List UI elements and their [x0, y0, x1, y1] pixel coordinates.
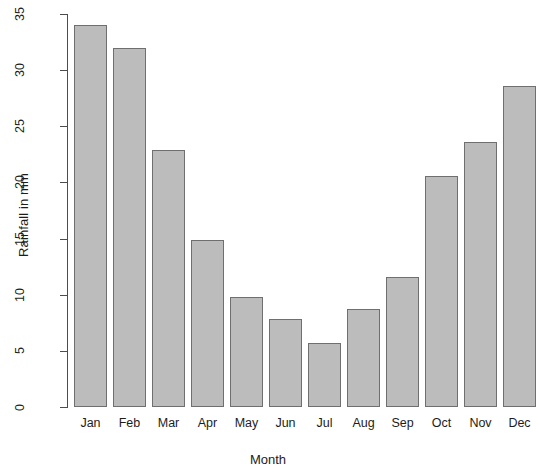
y-axis-tick: [60, 14, 67, 15]
y-axis-tick: [60, 295, 67, 296]
plot-area: [68, 14, 472, 407]
bar-jul: [308, 343, 341, 407]
y-axis-tick-label-text: 0: [14, 404, 58, 411]
bar-feb: [113, 48, 146, 407]
bar-aug: [347, 309, 380, 407]
bar-sep: [386, 277, 419, 407]
y-axis-tick-label-text: 20: [14, 175, 58, 189]
y-axis-tick: [60, 182, 67, 183]
x-axis-title: Month: [68, 452, 468, 467]
bar-mar: [152, 150, 185, 407]
y-axis-tick: [60, 407, 67, 408]
y-axis-tick-label: 10: [14, 280, 58, 310]
y-axis-tick: [60, 239, 67, 240]
y-axis-tick-label: 5: [14, 336, 58, 366]
bar-apr: [191, 240, 224, 407]
y-axis-tick-label: 0: [14, 392, 58, 422]
x-axis-tick-label: Dec: [497, 416, 540, 430]
y-axis-tick: [60, 351, 67, 352]
y-axis-tick-label: 25: [14, 111, 58, 141]
y-axis-tick-label: 35: [14, 0, 58, 29]
y-axis-tick-label-text: 10: [14, 288, 58, 302]
bar-jun: [269, 319, 302, 407]
y-axis-title: Rainfall in mm: [16, 135, 31, 295]
y-axis-tick: [60, 70, 67, 71]
y-axis-tick-label-text: 35: [14, 7, 58, 21]
bar-may: [230, 297, 263, 407]
y-axis-tick-label-text: 15: [14, 232, 58, 246]
y-axis-tick-label-text: 25: [14, 119, 58, 133]
bar-oct: [425, 176, 458, 407]
bar-nov: [464, 142, 497, 407]
y-axis-tick-label: 20: [14, 167, 58, 197]
bar-jan: [74, 25, 107, 407]
y-axis-tick: [60, 126, 67, 127]
y-axis-tick-label: 30: [14, 55, 58, 85]
y-axis-tick-label: 15: [14, 224, 58, 254]
y-axis-tick-label-text: 30: [14, 63, 58, 77]
bar-dec: [503, 86, 536, 407]
y-axis-tick-label-text: 5: [14, 347, 58, 354]
